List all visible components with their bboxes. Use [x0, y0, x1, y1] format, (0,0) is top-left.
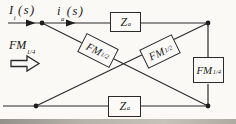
- impedance-bottom-subscript: a: [127, 105, 130, 112]
- node-dot: [34, 104, 39, 109]
- fm-right-subscript: 1/4: [213, 69, 221, 76]
- impedance-bottom-block: Za: [108, 96, 141, 117]
- impedance-top-symbol: Z: [121, 15, 128, 30]
- fm-source-label: FM1/4: [9, 38, 35, 54]
- node-dot: [206, 104, 211, 109]
- fm-right-block: FM1/4: [193, 57, 224, 83]
- fm-cross-down-subscript: 1/2: [99, 51, 109, 61]
- page-edge: [0, 119, 236, 124]
- armature-current-symbol: i: [57, 4, 60, 18]
- input-current-symbol: I: [9, 3, 13, 17]
- impedance-top-subscript: a: [128, 21, 131, 28]
- impedance-top-block: Za: [110, 12, 141, 32]
- arrowhead-icon: [26, 20, 36, 27]
- arrowhead-icon: [66, 20, 76, 27]
- input-current-label: Ii(s): [9, 3, 36, 19]
- flow-direction-arrow-icon: [11, 56, 39, 71]
- armature-current-label: ia(s): [57, 4, 84, 20]
- node-dot: [206, 21, 211, 26]
- impedance-bottom-symbol: Z: [120, 99, 127, 114]
- fm-source-symbol: FM: [9, 38, 26, 52]
- armature-current-argument: (s): [67, 4, 85, 18]
- fm-cross-up-subscript: 1/2: [163, 44, 173, 53]
- input-current-argument: (s): [18, 3, 36, 17]
- fm-source-subscript: 1/4: [27, 48, 35, 55]
- node-dot: [40, 21, 45, 26]
- circuit-block-diagram: Za Za FM1/2 FM1/2 FM1/4 Ii(s) ia(s) FM1/…: [0, 0, 236, 124]
- armature-current-subscript: a: [61, 15, 64, 22]
- fm-right-symbol: FM: [196, 64, 212, 76]
